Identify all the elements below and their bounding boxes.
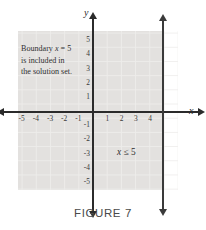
x-axis-label: x <box>189 106 193 116</box>
boundary-up-arrow-icon <box>159 14 167 21</box>
x-axis-left-arrow-icon <box>0 108 4 116</box>
y-tick-label-2: 2 <box>80 79 90 86</box>
x-tick-label--5: -5 <box>19 115 25 122</box>
annotation-line-2: is included in <box>21 55 99 67</box>
y-axis-label: y <box>84 8 88 18</box>
x-axis-right-arrow-icon <box>198 108 205 116</box>
x-tick-label-1: 1 <box>106 115 110 122</box>
y-axis-up-arrow-icon <box>89 12 97 19</box>
y-tick-label--3: -3 <box>78 150 90 157</box>
figure-caption: FIGURE 7 <box>0 207 206 219</box>
x-tick-label-2: 2 <box>120 115 124 122</box>
x-tick-label--4: -4 <box>33 115 39 122</box>
x-tick-label-3: 3 <box>134 115 138 122</box>
y-tick-label-1: 1 <box>80 93 90 100</box>
x-tick-label--3: -3 <box>47 115 53 122</box>
annotation-line-1-prefix: Boundary <box>21 44 55 53</box>
x-tick-label-4: 4 <box>148 115 152 122</box>
annotation-line-3: the solution set. <box>21 66 99 78</box>
y-tick-label--4: -4 <box>78 164 90 171</box>
boundary-line-x-equals-5 <box>162 21 164 209</box>
x-tick-label--2: -2 <box>61 115 67 122</box>
x-axis-line <box>4 111 200 113</box>
boundary-annotation: Boundary x = 5 is included in the soluti… <box>21 43 99 78</box>
y-tick-label--5: -5 <box>78 178 90 185</box>
inequality-expression: ≤ 5 <box>121 147 136 157</box>
inequality-label: x ≤ 5 <box>117 147 136 157</box>
annotation-line-1: Boundary x = 5 <box>21 43 99 55</box>
y-tick-label--1: -1 <box>78 121 90 128</box>
figure-container: -5 -4 -3 -2 -1 1 2 3 4 5 4 3 2 1 -1 -2 -… <box>0 0 206 230</box>
y-tick-label--2: -2 <box>78 136 90 143</box>
annotation-line-1-suffix: = 5 <box>59 44 72 53</box>
